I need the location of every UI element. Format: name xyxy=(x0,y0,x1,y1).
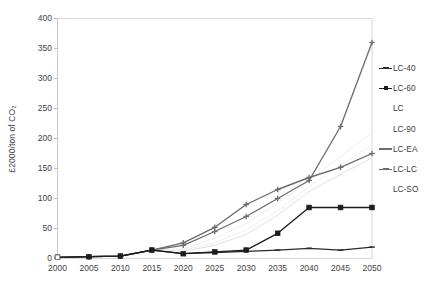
data-point xyxy=(118,254,123,259)
legend-item-lc-lc[interactable]: LC-LC xyxy=(379,159,429,179)
data-point xyxy=(87,254,92,259)
legend-key-icon xyxy=(379,144,392,154)
x-tick-label: 2010 xyxy=(103,263,137,273)
legend-label: LC xyxy=(393,103,404,113)
x-tick-label: 2020 xyxy=(166,263,200,273)
origin-marker xyxy=(55,255,60,260)
legend-item-lc-so[interactable]: LC-SO xyxy=(379,179,429,199)
data-point xyxy=(370,205,375,210)
legend-label: LC-60 xyxy=(393,83,416,93)
data-point xyxy=(338,205,343,210)
legend-key-icon xyxy=(379,63,392,73)
legend-item-lc-40[interactable]: LC-40 xyxy=(379,58,429,78)
x-tick-label: 2000 xyxy=(41,263,75,273)
data-point xyxy=(181,251,186,256)
legend-key-icon xyxy=(379,184,392,194)
series-line xyxy=(58,145,373,258)
legend-item-lc[interactable]: LC xyxy=(379,98,429,118)
legend-label: LC-EA xyxy=(393,144,417,154)
x-tick-label: 2005 xyxy=(72,263,106,273)
chart-legend: LC-40LC-60LCLC-90LC-EALC-LCLC-SO xyxy=(379,58,429,199)
line-chart: £2000/ton of CO₂ 05010015020025030035040… xyxy=(0,0,429,294)
plot-area xyxy=(0,0,429,294)
legend-label: LC-90 xyxy=(393,124,416,134)
series-lc-90 xyxy=(58,133,373,258)
series-line xyxy=(58,133,373,258)
x-tick-label: 2030 xyxy=(229,263,263,273)
legend-label: LC-SO xyxy=(393,184,418,194)
legend-key-icon xyxy=(379,124,392,134)
data-point xyxy=(212,250,217,255)
data-point xyxy=(149,248,154,253)
data-point xyxy=(307,205,312,210)
series-lc-so xyxy=(58,145,373,258)
data-point xyxy=(275,231,280,236)
x-tick-label: 2015 xyxy=(135,263,169,273)
x-axis-tick-labels: 2000200520102015202020252030203520402045… xyxy=(0,263,429,281)
legend-item-lc-90[interactable]: LC-90 xyxy=(379,119,429,139)
legend-key-icon xyxy=(379,83,392,93)
data-point xyxy=(244,248,249,253)
legend-item-lc-60[interactable]: LC-60 xyxy=(379,78,429,98)
legend-key-icon xyxy=(379,103,392,113)
legend-label: LC-40 xyxy=(393,63,416,73)
x-tick-label: 2025 xyxy=(198,263,232,273)
legend-label: LC-LC xyxy=(393,164,417,174)
x-tick-label: 2050 xyxy=(355,263,389,273)
x-tick-label: 2040 xyxy=(292,263,326,273)
legend-item-lc-ea[interactable]: LC-EA xyxy=(379,139,429,159)
x-tick-label: 2045 xyxy=(324,263,358,273)
legend-key-icon xyxy=(379,164,392,174)
x-tick-label: 2035 xyxy=(261,263,295,273)
